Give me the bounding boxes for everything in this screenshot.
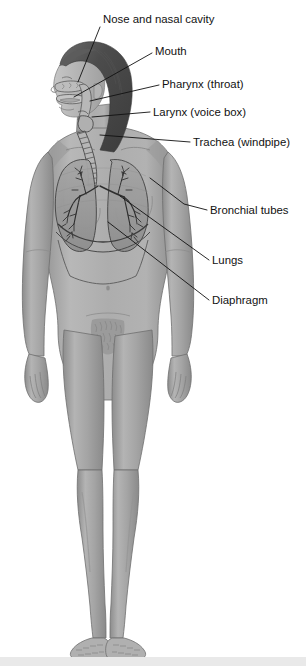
arm-right (163, 152, 194, 356)
label-diaphragm: Diaphragm (212, 294, 268, 306)
navel (106, 285, 110, 290)
lower-leg-left (77, 470, 106, 638)
thigh-right (112, 330, 153, 470)
arm-left (22, 152, 53, 356)
larynx (78, 116, 93, 132)
body-figure (22, 42, 193, 659)
thigh-left (63, 330, 104, 470)
label-larynx-voice-box: Larynx (voice box) (153, 106, 246, 118)
label-nose-and-nasal-cavity: Nose and nasal cavity (103, 13, 215, 25)
label-trachea-windpipe: Trachea (windpipe) (193, 136, 290, 148)
bottom-band (0, 657, 306, 666)
torso (40, 128, 176, 400)
foot-right (106, 638, 146, 659)
label-bronchial-tubes: Bronchial tubes (210, 204, 289, 216)
respiratory-system-diagram: Nose and nasal cavity Mouth Pharynx (thr… (0, 0, 306, 666)
label-mouth: Mouth (155, 45, 187, 57)
foot-left (70, 638, 110, 659)
label-pharynx-throat: Pharynx (throat) (162, 78, 244, 90)
diagram-canvas: Nose and nasal cavity Mouth Pharynx (thr… (0, 0, 306, 666)
lower-leg-right (110, 470, 139, 638)
label-lungs: Lungs (212, 254, 243, 266)
oral-cavity (57, 95, 85, 104)
